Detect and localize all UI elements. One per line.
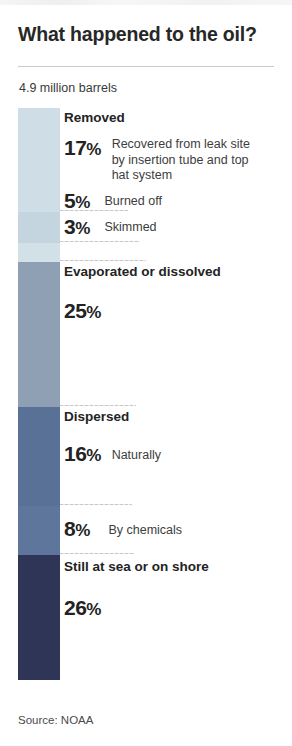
group-heading-dispersed: Dispersed <box>64 409 129 425</box>
row-divider-4 <box>60 405 136 406</box>
label-recovered: Recovered from leak site by insertion tu… <box>112 137 262 184</box>
group-heading-still-at-sea: Still at sea or on shore <box>64 559 209 575</box>
row-divider-3 <box>60 260 146 261</box>
value-evaporated: 25% <box>64 300 101 324</box>
value-skimmed: 3% <box>64 216 90 240</box>
row-skimmed: 3% Skimmed <box>64 216 157 240</box>
group-heading-removed: Removed <box>64 110 125 126</box>
row-evaporated: 25% <box>64 300 101 324</box>
source-note: Source: NOAA <box>18 714 93 726</box>
label-chemicals: By chemicals <box>108 518 182 539</box>
value-burned: 5% <box>64 190 90 214</box>
value-chemicals: 8% <box>64 518 90 542</box>
row-recovered: 17% Recovered from leak site by insertio… <box>64 137 286 184</box>
row-divider-2 <box>60 241 140 242</box>
row-chemicals: 8% By chemicals <box>64 518 182 542</box>
value-recovered: 17% <box>64 137 101 161</box>
group-heading-evaporated: Evaporated or dissolved <box>64 264 221 280</box>
label-naturally: Naturally <box>112 443 161 464</box>
label-burned: Burned off <box>104 190 161 210</box>
label-column: Removed 17% Recovered from leak site by … <box>0 0 292 746</box>
row-divider-6 <box>60 553 134 554</box>
row-divider-5 <box>60 504 132 505</box>
value-naturally: 16% <box>64 443 101 467</box>
row-still-at-sea: 26% <box>64 597 101 621</box>
row-burned: 5% Burned off <box>64 190 162 214</box>
label-skimmed: Skimmed <box>104 216 156 236</box>
row-naturally: 16% Naturally <box>64 443 161 467</box>
value-still-at-sea: 26% <box>64 597 101 621</box>
